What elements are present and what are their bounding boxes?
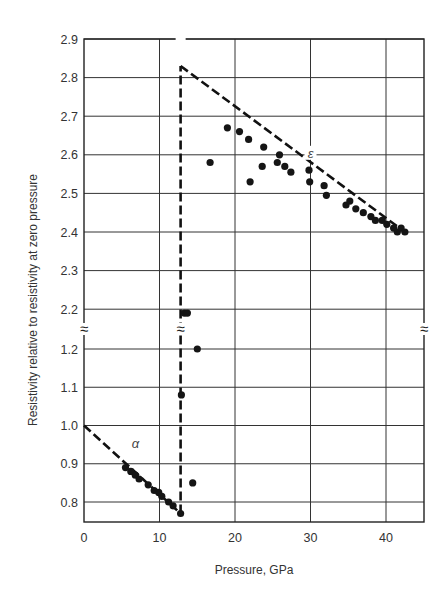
y-tick-label: 2.5 — [61, 187, 78, 201]
data-point — [360, 209, 367, 216]
data-point — [194, 345, 201, 352]
x-tick-label: 0 — [81, 531, 88, 545]
data-point — [352, 205, 359, 212]
y-tick-label: 0.9 — [61, 457, 78, 471]
data-point — [177, 510, 184, 517]
data-point — [372, 217, 379, 224]
data-point — [207, 159, 214, 166]
data-points — [122, 124, 409, 517]
x-axis-label: Pressure, GPa — [215, 563, 294, 577]
data-point — [158, 493, 165, 500]
x-axis-ticks: 010203040 — [81, 531, 393, 545]
y-axis-ticks: 2.92.82.72.62.52.42.32.21.21.11.00.90.8 — [61, 33, 78, 510]
y-tick-label: 2.9 — [61, 33, 78, 47]
y-tick-label: 2.2 — [61, 303, 78, 317]
data-point — [383, 221, 390, 228]
axis-break-icon: ≈ — [420, 320, 428, 337]
data-point — [287, 169, 294, 176]
phase-label: α — [132, 436, 140, 451]
data-point — [247, 178, 254, 185]
y-tick-label: 2.4 — [61, 226, 78, 240]
data-point — [401, 228, 408, 235]
data-point — [305, 167, 312, 174]
data-point — [281, 163, 288, 170]
data-point — [260, 144, 267, 151]
phase-labels: αε — [129, 146, 316, 451]
data-point — [178, 391, 185, 398]
data-point — [236, 128, 243, 135]
y-tick-label: 1.2 — [61, 343, 78, 357]
data-point — [306, 178, 313, 185]
y-tick-label: 2.6 — [61, 148, 78, 162]
resistivity-pressure-chart: 2.92.82.72.62.52.42.32.21.21.11.00.90.8 … — [0, 0, 448, 593]
data-point — [346, 198, 353, 205]
data-point — [259, 163, 266, 170]
phase-label: ε — [308, 146, 314, 161]
trend-line — [181, 66, 405, 232]
y-tick-label: 0.8 — [61, 496, 78, 510]
axis-break-icon: ≈ — [80, 320, 88, 337]
x-tick-label: 40 — [379, 531, 393, 545]
data-point — [145, 481, 152, 488]
data-point — [224, 124, 231, 131]
axis-break-icon: ≈ — [177, 320, 185, 337]
axis-break-markers: ≈≈≈ — [78, 320, 430, 337]
x-tick-label: 10 — [153, 531, 167, 545]
y-tick-label: 2.8 — [61, 71, 78, 85]
x-tick-label: 30 — [304, 531, 318, 545]
data-point — [276, 151, 283, 158]
y-tick-label: 2.7 — [61, 110, 78, 124]
data-point — [323, 192, 330, 199]
data-point — [184, 310, 191, 317]
data-point — [321, 182, 328, 189]
y-tick-label: 2.3 — [61, 264, 78, 278]
y-axis-label: Resistivity relative to resistivity at z… — [26, 174, 40, 426]
x-tick-label: 20 — [228, 531, 242, 545]
y-tick-label: 1.0 — [61, 419, 78, 433]
data-point — [274, 159, 281, 166]
data-point — [170, 502, 177, 509]
data-point — [189, 479, 196, 486]
y-tick-label: 1.1 — [61, 381, 78, 395]
data-point — [245, 136, 252, 143]
data-point — [136, 475, 143, 482]
